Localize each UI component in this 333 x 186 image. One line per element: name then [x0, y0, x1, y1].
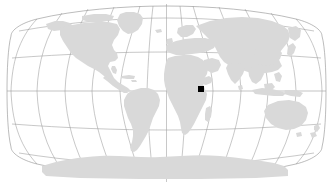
landmass-hispaniola: [131, 80, 137, 82]
location-marker[interactable]: [198, 86, 204, 92]
world-map-svg: [0, 0, 333, 186]
world-map-container: [0, 0, 333, 186]
